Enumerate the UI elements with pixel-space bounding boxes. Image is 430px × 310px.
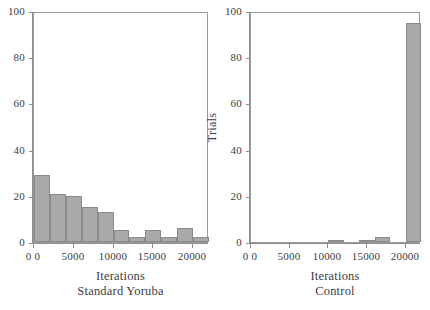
- histogram-bar: [177, 228, 193, 242]
- x-axis-tick-mark: [327, 244, 328, 248]
- histogram-bar: [375, 237, 390, 242]
- x-axis-title-control: Iterations Control: [250, 269, 420, 299]
- x-axis-tick-mark: [113, 244, 114, 248]
- y-axis-tick-label: 100: [208, 6, 242, 17]
- histogram-bar: [193, 237, 209, 242]
- histogram-bar: [50, 194, 66, 243]
- histogram-bar: [98, 212, 114, 242]
- histogram-bar: [129, 237, 145, 242]
- y-axis-tick-label: 20: [0, 191, 25, 202]
- histogram-bar: [114, 230, 130, 242]
- y-axis-spine: [32, 12, 33, 244]
- x-axis-tick-mark: [250, 244, 251, 248]
- y-axis-tick-label: 100: [0, 6, 25, 17]
- x-axis-tick-mark: [73, 244, 74, 248]
- y-axis-tick-label: 0: [0, 237, 25, 248]
- x-axis-tick-mark: [192, 244, 193, 248]
- histogram-bar: [82, 207, 98, 242]
- x-axis-tick-mark: [405, 244, 406, 248]
- plot-area-control: [250, 12, 420, 243]
- plot-area-standard-yoruba: [33, 12, 208, 243]
- y-axis-tick-label: 80: [0, 52, 25, 63]
- y-axis-tick-label: 40: [0, 145, 25, 156]
- y-axis-tick-label: 20: [208, 191, 242, 202]
- x-axis-tick-mark: [152, 244, 153, 248]
- y-axis-tick-label: 60: [0, 98, 25, 109]
- histogram-bars-standard-yoruba: [34, 13, 207, 242]
- x-axis-tick-label: 20000: [167, 251, 217, 262]
- x-axis-subtitle-line2: Control: [250, 284, 420, 299]
- histogram-bar: [34, 175, 50, 242]
- histogram-bars-control: [251, 13, 419, 242]
- x-axis-title-line1: Iterations: [33, 269, 208, 284]
- histogram-bar: [359, 240, 374, 242]
- histogram-bar: [145, 230, 161, 242]
- chart-panel-standard-yoruba: 020406080100 0 05000100001500020000 Tria…: [0, 0, 215, 310]
- x-axis-tick-mark: [289, 244, 290, 248]
- y-axis-title-standard-yoruba: Trials: [0, 98, 3, 158]
- x-axis-spine: [33, 243, 208, 244]
- histogram-bar: [161, 237, 177, 242]
- y-axis-title-control: Trials: [205, 98, 220, 158]
- chart-panel-control: 020406080100 0 05000100001500020000 Tria…: [215, 0, 430, 310]
- x-axis-subtitle-line2: Standard Yoruba: [33, 284, 208, 299]
- y-axis-spine: [249, 12, 250, 244]
- x-axis-tick-label: 20000: [380, 251, 430, 262]
- x-axis-spine: [250, 243, 420, 244]
- histogram-bar: [406, 23, 421, 242]
- histogram-bar: [66, 196, 82, 242]
- histogram-bar: [328, 240, 343, 242]
- y-axis-tick-label: 0: [208, 237, 242, 248]
- y-axis-tick-label: 80: [208, 52, 242, 63]
- x-axis-title-line1: Iterations: [250, 269, 420, 284]
- x-axis-tick-mark: [366, 244, 367, 248]
- x-axis-tick-mark: [33, 244, 34, 248]
- x-axis-title-standard-yoruba: Iterations Standard Yoruba: [33, 269, 208, 299]
